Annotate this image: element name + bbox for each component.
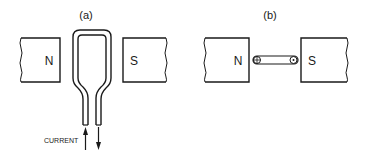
- panel-b: (b) N S: [204, 9, 348, 82]
- south-pole-label-b: S: [308, 54, 316, 68]
- diagram-canvas: (a) N S CURRENT: [0, 0, 367, 156]
- magnet-south-b: S: [301, 38, 348, 82]
- coil: [73, 30, 111, 125]
- south-pole-label: S: [130, 54, 138, 68]
- north-pole-label-b: N: [234, 54, 243, 68]
- panel-a-label: (a): [79, 9, 92, 21]
- magnet-south-a: S: [123, 38, 167, 82]
- magnet-north-a: N: [20, 38, 60, 82]
- panel-a: (a) N S CURRENT: [20, 9, 167, 150]
- current-arrow-in-icon: [83, 127, 88, 150]
- coil-cross-section: [253, 56, 298, 64]
- current-arrow-out-icon: [96, 127, 101, 150]
- current-label: CURRENT: [44, 137, 79, 144]
- magnet-north-b: N: [204, 38, 249, 82]
- north-pole-label: N: [45, 54, 54, 68]
- panel-b-label: (b): [263, 9, 276, 21]
